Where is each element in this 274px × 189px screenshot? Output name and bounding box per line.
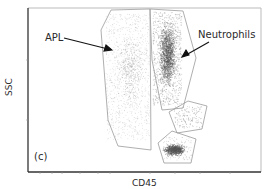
x-axis-label: CD45 bbox=[132, 179, 157, 188]
panel-label: (c) bbox=[34, 152, 47, 162]
annotation-arrows bbox=[64, 38, 209, 57]
event-dots bbox=[106, 12, 203, 161]
apl-gate bbox=[101, 9, 151, 150]
annotation-apl: APL bbox=[45, 33, 63, 43]
y-axis-label: SSC bbox=[4, 78, 14, 96]
gates bbox=[101, 9, 207, 163]
annotation-neutrophils: Neutrophils bbox=[198, 30, 255, 40]
